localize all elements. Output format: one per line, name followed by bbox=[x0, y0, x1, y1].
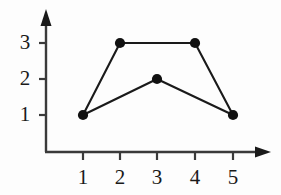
data-point-5-1 bbox=[228, 110, 238, 120]
y-axis bbox=[41, 9, 52, 152]
x-axis-label-1: 1 bbox=[72, 167, 94, 188]
data-point-4-3 bbox=[190, 38, 200, 48]
x-axis-label-4: 4 bbox=[184, 167, 206, 188]
data-point-1-1 bbox=[78, 110, 88, 120]
y-axis-arrowhead-icon bbox=[41, 9, 52, 26]
y-axis-label-3: 3 bbox=[14, 32, 36, 53]
x-axis-label-3: 3 bbox=[146, 167, 168, 188]
series-lower-line bbox=[83, 79, 233, 115]
data-point-3-2 bbox=[152, 74, 162, 84]
data-point-2-3 bbox=[115, 38, 125, 48]
plot-canvas bbox=[0, 0, 281, 195]
y-axis-label-2: 2 bbox=[14, 68, 36, 89]
y-axis-label-1: 1 bbox=[14, 104, 36, 125]
x-axis-label-2: 2 bbox=[109, 167, 131, 188]
line-chart-figure: 3 2 1 1 2 3 4 5 bbox=[0, 0, 281, 195]
x-axis-label-5: 5 bbox=[222, 167, 244, 188]
x-axis-arrowhead-icon bbox=[255, 147, 271, 158]
